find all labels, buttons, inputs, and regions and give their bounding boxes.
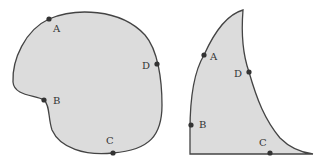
rounded-shape-outline xyxy=(13,12,162,154)
point-d-label: D xyxy=(142,60,150,71)
tapered-shape xyxy=(190,10,313,154)
point-b-dot xyxy=(188,122,193,127)
point-a-label: A xyxy=(209,51,218,62)
point-d-label: D xyxy=(234,68,242,79)
point-a-dot xyxy=(201,52,206,57)
point-c-dot xyxy=(267,150,272,155)
point-b-dot xyxy=(41,97,46,102)
point-b-label: B xyxy=(199,119,206,130)
point-c-dot xyxy=(110,150,115,155)
point-c-label: C xyxy=(259,137,267,148)
tapered-shape-outline xyxy=(190,10,313,154)
point-a-label: A xyxy=(52,23,61,34)
point-a-dot xyxy=(46,16,51,21)
point-c-label: C xyxy=(106,135,114,146)
point-d-dot xyxy=(246,69,251,74)
diagram-canvas: A D B C A D B C xyxy=(0,0,324,168)
point-b-label: B xyxy=(53,95,60,106)
point-d-dot xyxy=(154,61,159,66)
rounded-shape xyxy=(13,12,162,154)
